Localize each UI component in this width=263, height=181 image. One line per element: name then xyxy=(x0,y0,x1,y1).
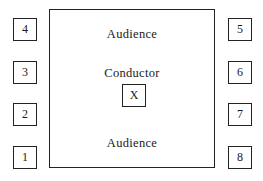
position-box-6: 6 xyxy=(228,61,252,84)
conductor-position-box: X xyxy=(122,84,146,107)
position-box-4: 4 xyxy=(13,18,37,41)
position-box-8: 8 xyxy=(228,146,252,169)
position-box-7: 7 xyxy=(228,103,252,126)
performance-area: Audience Conductor X Audience xyxy=(49,9,215,168)
position-box-3: 3 xyxy=(13,61,37,84)
audience-label-top: Audience xyxy=(50,27,214,42)
audience-label-bottom: Audience xyxy=(50,136,214,151)
position-box-2: 2 xyxy=(13,103,37,126)
position-box-5: 5 xyxy=(228,18,252,41)
conductor-label: Conductor xyxy=(50,66,214,81)
position-box-1: 1 xyxy=(13,146,37,169)
